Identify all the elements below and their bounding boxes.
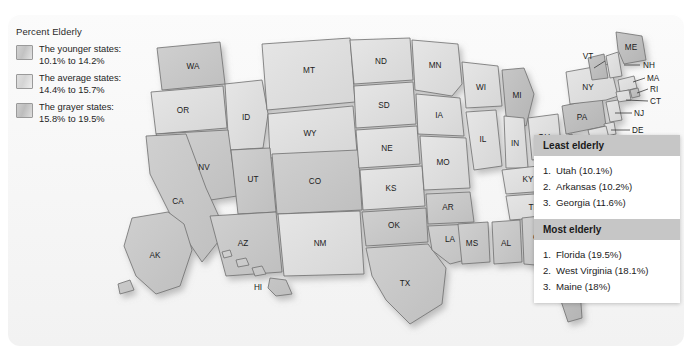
- list-item-rank: 2.: [543, 179, 556, 195]
- list-item-rank: 1.: [543, 163, 556, 179]
- state-label-MO: MO: [436, 158, 449, 167]
- state-label-AR: AR: [442, 203, 453, 212]
- state-label-OR: OR: [177, 106, 189, 115]
- state-label-WI: WI: [476, 83, 486, 92]
- state-label-HI: HI: [254, 283, 262, 292]
- state-label-UT: UT: [248, 175, 259, 184]
- state-label-WY: WY: [303, 129, 317, 138]
- state-label-MA: MA: [647, 74, 660, 83]
- state-label-NJ: NJ: [634, 109, 644, 118]
- list-item: 3. Maine (18%): [543, 279, 671, 295]
- list-item: 3. Georgia (11.6%): [543, 195, 671, 211]
- list-item: 1. Utah (10.1%): [543, 163, 671, 179]
- state-label-SD: SD: [378, 101, 389, 110]
- state-RI: [630, 88, 640, 98]
- state-label-PA: PA: [577, 113, 588, 122]
- list-item-rank: 3.: [543, 279, 556, 295]
- state-label-KS: KS: [386, 184, 397, 193]
- state-label-NH: NH: [643, 61, 655, 70]
- state-label-CO: CO: [309, 177, 321, 186]
- state-label-DE: DE: [632, 126, 644, 135]
- list-item-label: Florida (19.5%): [556, 247, 622, 263]
- state-label-IA: IA: [435, 111, 443, 120]
- most-elderly-heading: Most elderly: [534, 219, 680, 240]
- list-item-label: Arkansas (10.2%): [556, 179, 632, 195]
- list-item-rank: 1.: [543, 247, 556, 263]
- us-percent-elderly-figure: Percent Elderly The younger states: 10.1…: [0, 0, 692, 355]
- grayer-swatch-icon: [16, 103, 33, 118]
- state-label-VT: VT: [583, 52, 593, 61]
- state-label-ND: ND: [375, 57, 387, 66]
- state-label-ME: ME: [625, 43, 638, 52]
- legend-item-label: The average states: 14.4% to 15.7%: [39, 73, 121, 96]
- list-item-rank: 2.: [543, 263, 556, 279]
- state-label-AZ: AZ: [238, 239, 248, 248]
- list-item: 1. Florida (19.5%): [543, 247, 671, 263]
- state-label-KY: KY: [523, 175, 534, 184]
- state-label-AL: AL: [501, 239, 511, 248]
- state-label-OK: OK: [388, 221, 400, 230]
- list-item-label: Maine (18%): [556, 279, 610, 295]
- us-choropleth-map: WA OR ID MT WY NV UT CO CA AZ NM ND SD N…: [110, 18, 530, 338]
- state-label-MI: MI: [512, 91, 521, 100]
- list-item-label: Georgia (11.6%): [556, 195, 626, 211]
- legend-item-label: The younger states: 10.1% to 14.2%: [39, 44, 121, 67]
- younger-swatch-icon: [16, 45, 33, 60]
- state-label-TX: TX: [400, 279, 411, 288]
- state-label-NV: NV: [198, 163, 210, 172]
- state-label-MT: MT: [303, 66, 315, 75]
- list-item-rank: 3.: [543, 195, 556, 211]
- state-label-MS: MS: [466, 239, 479, 248]
- least-elderly-list: 1. Utah (10.1%) 2. Arkansas (10.2%) 3. G…: [534, 156, 680, 219]
- list-item: 2. West Virginia (18.1%): [543, 263, 671, 279]
- state-label-IN: IN: [511, 139, 519, 148]
- list-item-label: West Virginia (18.1%): [556, 263, 648, 279]
- state-label-WA: WA: [187, 62, 200, 71]
- most-elderly-list: 1. Florida (19.5%) 2. West Virginia (18.…: [534, 240, 680, 303]
- list-item-label: Utah (10.1%): [556, 163, 613, 179]
- state-label-ID: ID: [242, 113, 250, 122]
- rankings-panel: Least elderly 1. Utah (10.1%) 2. Arkansa…: [534, 135, 680, 303]
- state-label-LA: LA: [445, 235, 456, 244]
- state-label-CT: CT: [650, 97, 661, 106]
- state-label-MN: MN: [429, 61, 442, 70]
- state-label-NY: NY: [582, 83, 594, 92]
- least-elderly-heading: Least elderly: [534, 135, 680, 156]
- legend-item-label: The grayer states: 15.8% to 19.5%: [39, 102, 114, 125]
- state-label-NM: NM: [314, 239, 327, 248]
- state-label-AK: AK: [150, 251, 161, 260]
- state-label-CA: CA: [172, 197, 184, 206]
- state-label-RI: RI: [650, 85, 658, 94]
- state-label-IL: IL: [480, 135, 487, 144]
- average-swatch-icon: [16, 74, 33, 89]
- state-label-NE: NE: [381, 144, 393, 153]
- list-item: 2. Arkansas (10.2%): [543, 179, 671, 195]
